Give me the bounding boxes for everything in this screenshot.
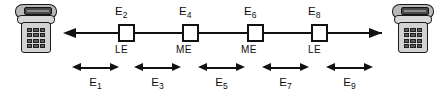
segment-label-base: E — [343, 76, 351, 88]
keypad-key — [417, 28, 422, 32]
exchange-node-box-e8[interactable] — [311, 24, 328, 42]
exchange-node-box-e2[interactable] — [118, 24, 135, 42]
exchange-node-label-e4: E4 — [179, 5, 191, 17]
keypad-key — [404, 44, 409, 48]
segment-label-e5: E5 — [198, 76, 245, 88]
trunk-arrow-left-icon — [63, 28, 76, 38]
diagram-canvas: E2 LE E4 ME E6 ME E8 LE E1 E3 — [0, 0, 446, 100]
telephone-right-icon — [389, 3, 437, 55]
keypad-key — [40, 44, 45, 48]
segment-label-base: E — [151, 76, 159, 88]
segment-label-sub: 5 — [223, 81, 228, 91]
keypad-key — [33, 44, 38, 48]
exchange-node-type-e4: ME — [176, 44, 192, 55]
segment-arrow-right-icon — [300, 63, 309, 71]
exchange-node-label-sub: 2 — [123, 10, 128, 20]
exchange-node-label-base: E — [115, 5, 123, 17]
keypad-key — [40, 28, 45, 32]
keypad-key — [410, 28, 415, 32]
exchange-node-type-e6: ME — [241, 44, 257, 55]
exchange-node-label-sub: 6 — [252, 10, 257, 20]
telephone-left-icon — [12, 3, 60, 55]
keypad-key — [417, 39, 422, 43]
telephone-base — [21, 22, 51, 53]
telephone-keypad — [404, 28, 422, 48]
exchange-node-label-base: E — [244, 5, 252, 17]
segment-label-sub: 1 — [97, 81, 102, 91]
exchange-node-type-e2: LE — [115, 44, 128, 55]
segment-label-base: E — [215, 76, 223, 88]
keypad-key — [417, 33, 422, 37]
keypad-key — [27, 28, 32, 32]
keypad-key — [27, 39, 32, 43]
telephone-handset-bar — [401, 7, 429, 15]
segment-label-sub: 3 — [159, 81, 164, 91]
keypad-key — [33, 33, 38, 37]
segment-label-sub: 7 — [287, 81, 292, 91]
keypad-key — [33, 39, 38, 43]
telephone-base — [398, 22, 428, 53]
segment-arrow-right-icon — [172, 63, 181, 71]
segment-bar — [206, 67, 237, 69]
exchange-node-type-e8: LE — [308, 44, 321, 55]
keypad-key — [410, 33, 415, 37]
segment-label-sub: 9 — [351, 81, 356, 91]
exchange-node-box-e4[interactable] — [182, 24, 199, 42]
segment-arrow-right-icon — [110, 63, 119, 71]
exchange-node-box-e6[interactable] — [247, 24, 264, 42]
segment-label-e9: E9 — [326, 76, 373, 88]
telephone-keypad — [27, 28, 45, 48]
keypad-key — [40, 33, 45, 37]
segment-bar — [270, 67, 301, 69]
segment-e9: E9 — [326, 63, 373, 87]
keypad-key — [404, 33, 409, 37]
exchange-node-label-sub: 4 — [187, 10, 192, 20]
keypad-key — [404, 28, 409, 32]
exchange-node-label-e6: E6 — [244, 5, 256, 17]
segment-label-base: E — [89, 76, 97, 88]
segment-bar — [80, 67, 111, 69]
keypad-key — [40, 39, 45, 43]
keypad-key — [404, 39, 409, 43]
exchange-node-label-base: E — [308, 5, 316, 17]
segment-label-e3: E3 — [134, 76, 181, 88]
segment-arrow-right-icon — [236, 63, 245, 71]
segment-label-e1: E1 — [72, 76, 119, 88]
exchange-node-label-sub: 8 — [316, 10, 321, 20]
telephone-handset-bar — [24, 7, 52, 15]
keypad-key — [410, 39, 415, 43]
segment-e5: E5 — [198, 63, 245, 87]
exchange-node-label-e2: E2 — [115, 5, 127, 17]
segment-bar — [334, 67, 365, 69]
segment-e1: E1 — [72, 63, 119, 87]
keypad-key — [33, 28, 38, 32]
segment-e3: E3 — [134, 63, 181, 87]
exchange-node-label-base: E — [179, 5, 187, 17]
segment-label-base: E — [279, 76, 287, 88]
exchange-node-label-e8: E8 — [308, 5, 320, 17]
keypad-key — [27, 44, 32, 48]
keypad-key — [27, 33, 32, 37]
segment-e7: E7 — [262, 63, 309, 87]
segment-label-e7: E7 — [262, 76, 309, 88]
keypad-key — [410, 44, 415, 48]
trunk-arrow-right-icon — [369, 28, 382, 38]
segment-arrow-right-icon — [364, 63, 373, 71]
keypad-key — [417, 44, 422, 48]
segment-bar — [142, 67, 173, 69]
